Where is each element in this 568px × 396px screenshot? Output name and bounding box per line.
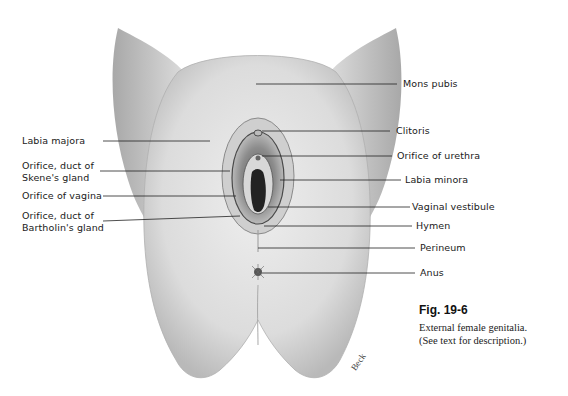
urethra-shape xyxy=(256,156,261,161)
label-mons-pubis: Mons pubis xyxy=(403,78,458,90)
label-skene-line1: Orifice, duct of xyxy=(22,160,94,172)
label-orifice-vagina: Orifice of vagina xyxy=(22,190,102,202)
label-clitoris: Clitoris xyxy=(396,125,430,137)
figure-caption: External female genitalia. (See text for… xyxy=(419,321,568,347)
caption-line-1: External female genitalia. xyxy=(419,321,568,334)
vaginal-orifice-shape xyxy=(251,169,266,212)
label-perineum: Perineum xyxy=(420,242,466,254)
clitoris-shape xyxy=(254,130,262,136)
label-labia-majora: Labia majora xyxy=(22,135,85,147)
label-hymen: Hymen xyxy=(416,220,450,232)
label-labia-minora: Labia minora xyxy=(405,174,468,186)
label-bartholin-line2: Bartholin's gland xyxy=(22,222,104,234)
label-orifice-urethra: Orifice of urethra xyxy=(397,150,480,162)
label-bartholin-line1: Orifice, duct of xyxy=(22,210,94,222)
anatomy-figure: Labia majora Orifice, duct of Skene's gl… xyxy=(0,0,568,396)
label-anus: Anus xyxy=(420,267,444,279)
caption-line-2: (See text for description.) xyxy=(419,334,568,347)
figure-number: Fig. 19-6 xyxy=(419,303,468,317)
label-vaginal-vestibule: Vaginal vestibule xyxy=(412,201,495,213)
label-skene-line2: Skene's gland xyxy=(22,172,89,184)
